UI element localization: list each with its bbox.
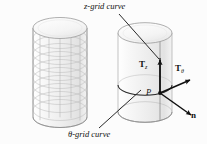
figure-canvas: z-grid curve θ-grid curve Tz Tθ P n — [0, 0, 207, 144]
z-grid-curve-label: z-grid curve — [84, 2, 125, 11]
theta-grid-curve-label: θ-grid curve — [68, 130, 110, 139]
tangent-Ttheta-subscript: θ — [181, 68, 184, 74]
tangent-Tz-label: Tz — [139, 60, 147, 70]
point-P-label: P — [146, 88, 151, 97]
normal-n-label: n — [191, 111, 196, 120]
left-cylinder-top-cap — [33, 18, 87, 39]
tangent-Tz-subscript: z — [145, 64, 147, 70]
tangent-Ttheta-label: Tθ — [175, 64, 184, 74]
right-cylinder-top-cap — [118, 23, 172, 44]
left-gridded-cylinder — [33, 18, 87, 128]
